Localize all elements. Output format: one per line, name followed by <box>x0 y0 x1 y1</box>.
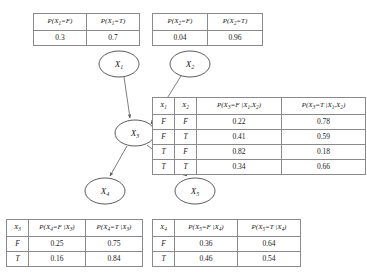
node-x2-ellipse <box>170 51 210 77</box>
table-x5-cpt: X4 P(X5=F |X4) P(X5=T |X4) F 0.36 0.64 T… <box>152 219 301 267</box>
table-row: F T 0.41 0.59 <box>153 130 366 145</box>
cell-value: 0.36 <box>175 237 238 252</box>
cell-value: T <box>153 160 175 175</box>
cell-value: F <box>7 237 29 252</box>
cell-value: F <box>153 130 175 145</box>
table-x3-cpt: X1 X2 P(X3=F |X1,X2) P(X3=T |X1,X2) F F … <box>152 97 366 175</box>
header-p-x5-true: P(X5=T |X4) <box>238 220 301 237</box>
table-row: F 0.36 0.64 <box>153 237 301 252</box>
cell-value: 0.59 <box>282 130 366 145</box>
table-row: T F 0.82 0.18 <box>153 145 366 160</box>
table-row: F F 0.22 0.78 <box>153 115 366 130</box>
table-row-header: P(X2=F) P(X2=T) <box>153 14 263 31</box>
header-p-x4-false: P(X4=F |X3) <box>29 220 86 237</box>
cell-value: 0.34 <box>197 160 282 175</box>
header-p-x3-false: P(X3=F |X1,X2) <box>197 98 282 115</box>
header-x1: X1 <box>153 98 175 115</box>
cell-value: F <box>175 115 197 130</box>
cell-value: 0.22 <box>197 115 282 130</box>
edge-x1-to-x3 <box>124 77 130 118</box>
table-x1-prior: P(X1=F) P(X1=T) 0.3 0.7 <box>33 13 140 46</box>
edge-x3-to-x4 <box>110 146 127 176</box>
cell-value: 0.64 <box>238 237 301 252</box>
node-x1[interactable]: X1 <box>99 51 139 77</box>
cell-value: 0.25 <box>29 237 86 252</box>
table-x2-prior: P(X2=F) P(X2=T) 0.04 0.96 <box>152 13 263 46</box>
node-x1-ellipse <box>99 51 139 77</box>
header-p-x2-false: P(X2=F) <box>153 14 208 31</box>
cell-value: 0.18 <box>282 145 366 160</box>
header-x2: X2 <box>175 98 197 115</box>
cell-value: 0.84 <box>86 252 143 267</box>
node-x2[interactable]: X2 <box>170 51 210 77</box>
cell-value: 0.78 <box>282 115 366 130</box>
cell-value: 0.54 <box>238 252 301 267</box>
header-x4: X4 <box>153 220 175 237</box>
cell-value: 0.82 <box>197 145 282 160</box>
cell-value: 0.04 <box>153 31 208 46</box>
cell-value: F <box>153 115 175 130</box>
cell-value: 0.75 <box>86 237 143 252</box>
table-row-header: X1 X2 P(X3=F |X1,X2) P(X3=T |X1,X2) <box>153 98 366 115</box>
cell-value: 0.41 <box>197 130 282 145</box>
header-p-x3-true: P(X3=T |X1,X2) <box>282 98 366 115</box>
header-p-x2-true: P(X2=T) <box>208 14 263 31</box>
cell-value: T <box>175 130 197 145</box>
node-x3-ellipse <box>115 120 155 146</box>
header-p-x1-false: P(X1=F) <box>34 14 87 31</box>
node-x5-label: X5 <box>190 186 200 197</box>
table-row: 0.04 0.96 <box>153 31 263 46</box>
cell-value: T <box>153 145 175 160</box>
node-x3-label: X3 <box>130 128 140 139</box>
header-p-x4-true: P(X4=T |X3) <box>86 220 143 237</box>
table-row-header: X3 P(X4=F |X3) P(X4=T |X3) <box>7 220 143 237</box>
table-row-header: X4 P(X5=F |X4) P(X5=T |X4) <box>153 220 301 237</box>
node-x4-ellipse <box>85 178 125 204</box>
node-x4-label: X4 <box>100 186 110 197</box>
header-p-x1-true: P(X1=T) <box>87 14 140 31</box>
table-row: T T 0.34 0.66 <box>153 160 366 175</box>
node-x2-label: X2 <box>185 59 195 70</box>
table-row: T 0.16 0.84 <box>7 252 143 267</box>
table-row: F 0.25 0.75 <box>7 237 143 252</box>
table-x4-cpt: X3 P(X4=F |X3) P(X4=T |X3) F 0.25 0.75 T… <box>6 219 143 267</box>
header-x3: X3 <box>7 220 29 237</box>
cell-value: 0.96 <box>208 31 263 46</box>
node-x5[interactable]: X5 <box>175 178 215 204</box>
bayesian-network-figure: X1 X2 X3 X4 X5 P(X1=F) P(X1=T) 0.3 0 <box>0 0 367 272</box>
node-x5-ellipse <box>175 178 215 204</box>
cell-value: T <box>175 160 197 175</box>
node-x4[interactable]: X4 <box>85 178 125 204</box>
header-p-x5-false: P(X5=F |X4) <box>175 220 238 237</box>
node-x1-label: X1 <box>114 59 124 70</box>
table-row-header: P(X1=F) P(X1=T) <box>34 14 140 31</box>
cell-value: F <box>153 237 175 252</box>
cell-value: 0.16 <box>29 252 86 267</box>
cell-value: 0.3 <box>34 31 87 46</box>
cell-value: T <box>7 252 29 267</box>
table-row: T 0.46 0.54 <box>153 252 301 267</box>
cell-value: 0.46 <box>175 252 238 267</box>
node-x3[interactable]: X3 <box>115 120 155 146</box>
cell-value: 0.66 <box>282 160 366 175</box>
cell-value: F <box>175 145 197 160</box>
table-row: 0.3 0.7 <box>34 31 140 46</box>
cell-value: T <box>153 252 175 267</box>
cell-value: 0.7 <box>87 31 140 46</box>
